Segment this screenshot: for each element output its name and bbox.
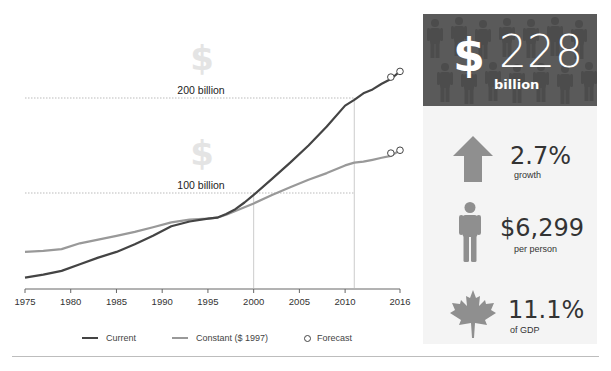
ref-label-200: 200 billion [177, 84, 224, 96]
growth-label: growth [514, 170, 541, 180]
series-line-current [25, 71, 400, 277]
forecast-point [388, 150, 395, 157]
x-tick-label: 1995 [197, 296, 218, 307]
dollar-watermark-icon: $ [190, 133, 214, 173]
legend-swatch-current [82, 337, 98, 340]
x-tick-label: 2016 [389, 296, 410, 307]
dollar-watermark-icon: $ [190, 38, 214, 78]
growth-value: 2.7% [510, 144, 571, 168]
ref-label-100: 100 billion [177, 179, 224, 191]
x-tick-label: 1990 [152, 296, 173, 307]
x-tick-label: 1985 [106, 296, 127, 307]
legend-label: Current [106, 333, 136, 343]
x-tick-label: 2000 [243, 296, 264, 307]
gdp-label: of GDP [510, 325, 540, 335]
legend-item-constant: Constant ($ 1997) [172, 333, 268, 343]
gdp-value: 11.1% [508, 298, 584, 322]
footer-divider [12, 356, 599, 357]
legend-item-current: Current [82, 333, 136, 343]
up-arrow-icon [453, 136, 493, 182]
growth-stat: 2.7% growth [423, 124, 597, 194]
x-tick-label: 2010 [335, 296, 356, 307]
x-tick-label: 1975 [14, 296, 35, 307]
total-value: 228 [499, 30, 583, 74]
x-tick-label: 1980 [60, 296, 81, 307]
legend-item-forecast: Forecast [304, 333, 352, 343]
maple-leaf-icon [450, 290, 496, 338]
per-person-value: $6,299 [500, 216, 584, 240]
x-tick-label: 2005 [289, 296, 310, 307]
summary-panel: $ 228 billion 2.7% growth $6,299 per per… [423, 14, 597, 344]
legend-label: Forecast [317, 333, 352, 343]
per-person-label: per person [514, 244, 557, 254]
forecast-point [388, 74, 395, 81]
forecast-point [397, 147, 404, 154]
per-person-stat: $6,299 per person [423, 202, 597, 282]
open-circle-icon [304, 335, 311, 342]
legend-label: Constant ($ 1997) [196, 333, 268, 343]
legend-swatch-constant [172, 337, 188, 340]
gdp-stat: 11.1% of GDP [423, 290, 597, 344]
forecast-point [397, 68, 404, 75]
chart-legend: Current Constant ($ 1997) Forecast [82, 333, 388, 343]
total-spending-card: $ 228 billion [423, 14, 597, 106]
spending-chart: $ $ 200 billion 100 billion 1975 1980 19… [0, 0, 420, 340]
person-icon [459, 202, 481, 262]
total-unit: billion [494, 77, 539, 92]
dollar-symbol: $ [453, 32, 485, 78]
